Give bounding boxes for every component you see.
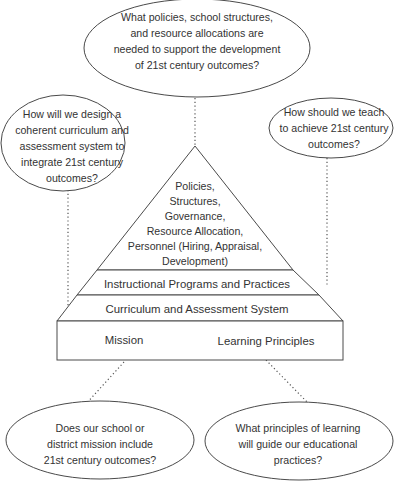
svg-text:What policies, school structur: What policies, school structures,	[121, 11, 273, 23]
pyramid-base-learning-principles-label: Learning Principles	[218, 335, 315, 347]
svg-text:outcomes?: outcomes?	[46, 172, 98, 184]
svg-text:Resource Allocation,: Resource Allocation,	[147, 225, 244, 237]
pyramid-base-mission-label: Mission	[105, 334, 144, 346]
pyramid-layer-curriculum-label: Curriculum and Assessment System	[106, 303, 289, 315]
pyramid-layer-instructional-label: Instructional Programs and Practices	[104, 278, 290, 290]
pyramid-diagram: What policies, school structures, and re…	[0, 0, 394, 485]
question-bottom-left-text: Does our school or district mission incl…	[44, 422, 157, 466]
svg-text:outcomes?: outcomes?	[308, 138, 360, 150]
svg-text:21st century outcomes?: 21st century outcomes?	[44, 454, 157, 466]
connector-bottom-right	[266, 360, 308, 403]
svg-text:to achieve 21st century: to achieve 21st century	[280, 122, 390, 134]
svg-text:Policies,: Policies,	[175, 180, 214, 192]
svg-text:What principles of learning: What principles of learning	[236, 422, 361, 434]
svg-text:coherent curriculum and: coherent curriculum and	[15, 124, 129, 136]
svg-text:will guide our educational: will guide our educational	[238, 438, 358, 450]
svg-text:needed to support the developm: needed to support the development	[114, 43, 281, 55]
svg-text:How will we design a: How will we design a	[23, 108, 121, 120]
svg-text:assessment system to: assessment system to	[20, 140, 125, 152]
svg-text:district mission include: district mission include	[47, 438, 153, 450]
connector-bottom-left	[85, 362, 124, 405]
svg-text:of 21st century outcomes?: of 21st century outcomes?	[135, 59, 259, 71]
svg-text:practices?: practices?	[274, 454, 322, 466]
svg-text:Structures,: Structures,	[169, 195, 220, 207]
svg-text:How should we teach: How should we teach	[284, 106, 385, 118]
svg-text:Governance,: Governance,	[165, 210, 226, 222]
svg-text:Personnel (Hiring, Appraisal,: Personnel (Hiring, Appraisal,	[128, 240, 262, 252]
svg-text:Does our school or: Does our school or	[56, 422, 145, 434]
svg-text:and resource allocations are: and resource allocations are	[130, 27, 263, 39]
svg-text:Development): Development)	[162, 255, 228, 267]
svg-text:integrate 21st century: integrate 21st century	[21, 156, 124, 168]
